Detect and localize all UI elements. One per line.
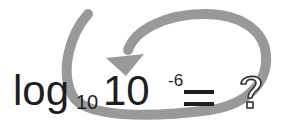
log-function: log [13,70,69,112]
question-mark-outline-icon [238,72,264,112]
power-base: 10 [103,70,150,112]
equals-sign [184,90,214,107]
exponent-superscript: -6 [168,72,183,89]
equals-bar-bottom [184,102,214,106]
log-equation-diagram: log 10 10 -6 [0,0,295,128]
log-base-subscript: 10 [76,92,98,112]
equals-bar-top [184,90,214,94]
